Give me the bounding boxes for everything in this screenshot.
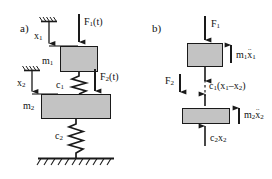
double-dot-accent-x1: .. [248,45,252,52]
double-dot-accent-x2: .. [256,105,260,112]
label-fbd-c2-x2: c2x2 [210,133,226,144]
label-m2: m2 [23,101,34,112]
support-hatch-x1 [40,17,58,22]
label-x1: x1 [34,31,43,42]
label-c1: c1 [56,80,64,91]
label-fbd-m1-x1-ddot: m1..x1 [236,50,256,61]
spring-c1 [72,72,86,94]
spring-c2 [69,119,83,158]
label-c2: c2 [55,131,63,142]
label-fbd-F1: F1 [211,19,220,30]
label-fbd-spring-c1-relative: c1(x1–x2) [209,81,246,92]
label-fbd-m2-x2-ddot: m2..x2 [244,110,264,121]
mechanical-system-figure: a) b) [0,0,272,179]
label-fbd-F2: F2 [165,76,174,87]
label-F1t: F1(t) [84,17,103,28]
label-x2: x2 [17,78,26,89]
label-F2t: F2(t) [100,72,119,83]
label-m1: m1 [42,56,53,67]
support-hatch-x2 [23,66,41,71]
ground-hatch [37,159,114,166]
